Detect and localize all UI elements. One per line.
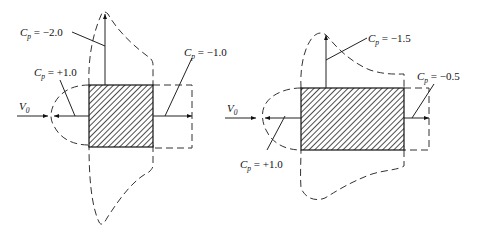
right-rect-body xyxy=(301,88,404,150)
left-label-rear: Cp = −1.0 xyxy=(184,46,227,61)
left-rear-leader xyxy=(165,58,192,116)
right-panel: Cp = −1.5 Cp = −0.5 Cp = +1.0 V0 xyxy=(225,32,460,200)
left-top-leader xyxy=(72,32,105,46)
left-front-leader xyxy=(60,80,75,116)
left-front-lobe xyxy=(51,85,89,145)
right-label-rear: Cp = −0.5 xyxy=(417,70,460,85)
right-freestream-label: V0 xyxy=(227,102,238,117)
left-label-top: Cp = −2.0 xyxy=(20,26,63,41)
right-front-lobe xyxy=(262,88,301,150)
left-square-body xyxy=(89,85,153,147)
right-front-leader xyxy=(267,116,285,150)
right-label-top: Cp = −1.5 xyxy=(368,32,411,47)
right-top-leader xyxy=(326,38,367,60)
pressure-distribution-diagram: Cp = −2.0 Cp = +1.0 Cp = −1.0 V0 xyxy=(0,0,479,236)
left-freestream-label: V0 xyxy=(19,100,30,115)
right-rear-leader xyxy=(412,84,434,118)
left-panel: Cp = −2.0 Cp = +1.0 Cp = −1.0 V0 xyxy=(17,12,227,224)
right-label-front: Cp = +1.0 xyxy=(240,158,283,173)
left-label-front: Cp = +1.0 xyxy=(34,66,77,81)
